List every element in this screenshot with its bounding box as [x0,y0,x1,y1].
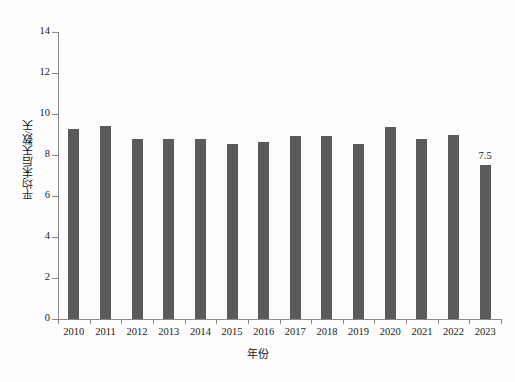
x-tick [90,320,91,324]
x-tick [469,320,470,324]
bar [132,139,143,319]
x-tick [248,320,249,324]
x-tick [343,320,344,324]
x-tick [501,320,502,324]
y-tick-label: 6 [22,189,50,200]
y-tick-label: 2 [22,271,50,282]
bar [353,144,364,319]
x-tick-label: 2023 [465,326,505,337]
x-tick [185,320,186,324]
bar [100,126,111,319]
x-tick [121,320,122,324]
y-tick-label: 14 [22,25,50,36]
bar [480,165,491,319]
bar [321,136,332,319]
y-tick-label: 8 [22,148,50,159]
x-tick [280,320,281,324]
x-axis-title: 年份 [0,345,515,361]
bar [163,139,174,319]
y-tick-label: 10 [22,107,50,118]
bar [416,139,427,319]
x-tick [438,320,439,324]
bar [290,136,301,319]
bar-chart-figure: 平均末后天数/天 02468101214 2010201120122013201… [0,0,515,382]
bar [258,142,269,319]
x-tick [406,320,407,324]
plot-area [58,32,501,319]
bar [195,139,206,319]
x-tick [216,320,217,324]
x-tick [58,320,59,324]
bar [448,135,459,320]
bar [68,129,79,319]
bar-value-label: 7.5 [465,150,505,161]
x-tick [374,320,375,324]
y-tick-label: 12 [22,66,50,77]
y-tick-label: 0 [22,312,50,323]
x-tick [311,320,312,324]
x-tick [153,320,154,324]
bar [385,127,396,319]
bar [227,144,238,319]
y-tick-label: 4 [22,230,50,241]
